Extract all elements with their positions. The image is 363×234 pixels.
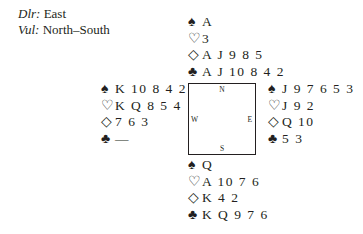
diamond-icon: ◇ bbox=[188, 47, 202, 64]
compass-west: W bbox=[191, 115, 198, 124]
diamond-icon: ◇ bbox=[188, 190, 202, 207]
north-diamonds: ◇A J 9 8 5 bbox=[188, 47, 285, 64]
spade-icon: ♠ bbox=[268, 81, 282, 98]
north-clubs: ♣A J 10 8 4 2 bbox=[188, 64, 285, 81]
spade-icon: ♠ bbox=[188, 14, 202, 31]
south-hearts: ♡A 10 7 6 bbox=[188, 174, 269, 191]
east-hearts: ♡J 9 2 bbox=[268, 98, 354, 115]
west-diamonds: ◇7 6 3 bbox=[101, 114, 187, 131]
east-hand: ♠J 9 7 6 5 3 ♡J 9 2 ◇Q 10 ♣5 3 bbox=[268, 81, 354, 147]
north-hand: ♠A ♡3 ◇A J 9 8 5 ♣A J 10 8 4 2 bbox=[188, 14, 285, 80]
heart-icon: ♡ bbox=[188, 174, 202, 191]
vulnerability-line: Vul: North–South bbox=[18, 22, 110, 37]
east-spades: ♠J 9 7 6 5 3 bbox=[268, 81, 354, 98]
east-diamonds: ◇Q 10 bbox=[268, 114, 354, 131]
diamond-icon: ◇ bbox=[268, 114, 282, 131]
club-icon: ♣ bbox=[188, 64, 202, 81]
diamond-icon: ◇ bbox=[101, 114, 115, 131]
west-hand: ♠K 10 8 4 2 ♡K Q 8 5 4 ◇7 6 3 ♣— bbox=[101, 81, 187, 147]
compass-east: E bbox=[247, 115, 252, 124]
north-spades: ♠A bbox=[188, 14, 285, 31]
compass-south: S bbox=[189, 144, 255, 153]
heart-icon: ♡ bbox=[188, 31, 202, 48]
dealer-line: Dlr: East bbox=[18, 6, 66, 21]
spade-icon: ♠ bbox=[188, 157, 202, 174]
vul-value: North–South bbox=[43, 22, 110, 37]
north-hearts: ♡3 bbox=[188, 31, 285, 48]
dealer-label: Dlr: bbox=[18, 6, 40, 21]
south-hand: ♠Q ♡A 10 7 6 ◇K 4 2 ♣K Q 9 7 6 bbox=[188, 157, 269, 223]
spade-icon: ♠ bbox=[101, 81, 115, 98]
club-icon: ♣ bbox=[101, 131, 115, 148]
club-icon: ♣ bbox=[188, 207, 202, 224]
west-spades: ♠K 10 8 4 2 bbox=[101, 81, 187, 98]
south-diamonds: ◇K 4 2 bbox=[188, 190, 269, 207]
vul-label: Vul: bbox=[18, 22, 39, 37]
east-clubs: ♣5 3 bbox=[268, 131, 354, 148]
south-spades: ♠Q bbox=[188, 157, 269, 174]
compass-north: N bbox=[189, 85, 255, 94]
south-clubs: ♣K Q 9 7 6 bbox=[188, 207, 269, 224]
west-clubs: ♣— bbox=[101, 131, 187, 148]
heart-icon: ♡ bbox=[268, 98, 282, 115]
dealer-value: East bbox=[44, 6, 66, 21]
compass-box: N W E S bbox=[188, 83, 256, 155]
heart-icon: ♡ bbox=[101, 98, 115, 115]
west-hearts: ♡K Q 8 5 4 bbox=[101, 98, 187, 115]
club-icon: ♣ bbox=[268, 131, 282, 148]
